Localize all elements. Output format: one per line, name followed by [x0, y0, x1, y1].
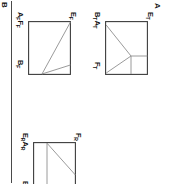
panel-divider — [11, 1, 12, 183]
panel-relaxation-label-bottom-left: FR — [75, 133, 83, 141]
label-a-t-sub: T — [93, 25, 99, 28]
label-f-t-sub: T — [93, 66, 99, 69]
panel-tension-diagram — [105, 21, 148, 75]
label-f-f-sub: F — [16, 24, 22, 27]
panel-tension-label-bottom-left: ET — [147, 12, 155, 20]
label-b-t-sub: T — [93, 17, 99, 20]
label-e-f-sub: F — [69, 17, 75, 20]
panel-tension-label-top-right: FT — [94, 62, 102, 70]
label-e-r-sub: R — [21, 138, 27, 142]
panel-flexion-diagram — [28, 21, 71, 75]
label-e-t-sub: T — [146, 17, 152, 20]
label-b-f-sub: F — [16, 65, 22, 68]
label-b-r-main: B — [21, 181, 30, 184]
figure-root: A B AFFF BF EF BTAT FT ET — [0, 0, 169, 184]
panel-tension-label-top-left: BTAT — [94, 12, 102, 29]
panel-tag-a: A — [153, 3, 161, 9]
panel-relaxation-diagram — [33, 142, 76, 184]
panel-relaxation-label-top-right: BR — [22, 181, 30, 184]
label-a-r-sub: R — [21, 147, 27, 151]
panel-flexion-label-bottom-left: EF — [70, 12, 78, 20]
panel-relaxation-frame — [34, 143, 76, 184]
panel-tag-b: B — [0, 2, 8, 8]
panel-tension-frame — [106, 22, 148, 75]
panel-relaxation-label-top-left: ERAR — [22, 133, 30, 151]
panel-flexion-frame — [29, 22, 71, 75]
label-f-r-sub: R — [74, 137, 80, 141]
panel-flexion-label-top-left: AFFF — [17, 12, 25, 28]
label-a-f-sub: F — [16, 17, 22, 20]
panel-flexion-label-top-right: BF — [17, 60, 25, 68]
